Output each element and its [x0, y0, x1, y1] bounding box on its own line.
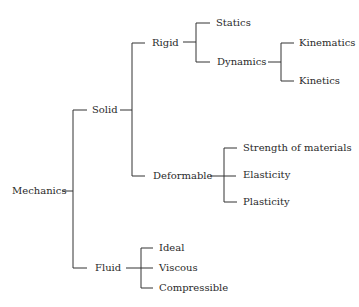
node-mechanics: Mechanics — [12, 185, 67, 197]
node-kinetics: Kinetics — [299, 75, 340, 87]
node-compressible: Compressible — [159, 282, 228, 294]
node-solid: Solid — [92, 104, 118, 116]
node-fluid: Fluid — [95, 262, 121, 274]
node-strength-of-materials: Strength of materials — [243, 142, 352, 154]
node-ideal: Ideal — [159, 242, 184, 254]
mechanics-tree-diagram: Mechanics Solid Rigid Statics Dynamics K… — [0, 0, 359, 307]
node-dynamics: Dynamics — [217, 56, 266, 68]
node-elasticity: Elasticity — [243, 169, 290, 181]
node-plasticity: Plasticity — [243, 196, 290, 208]
node-rigid: Rigid — [152, 37, 179, 49]
node-statics: Statics — [216, 17, 251, 29]
node-viscous: Viscous — [159, 262, 198, 274]
node-kinematics: Kinematics — [299, 37, 355, 49]
node-deformable: Deformable — [153, 170, 212, 182]
